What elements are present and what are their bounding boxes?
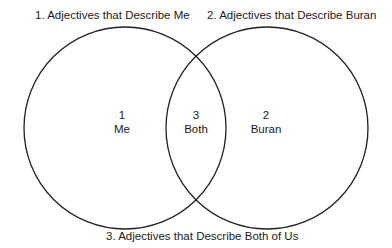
caption-set-1: 1. Adjectives that Describe Me [35, 9, 190, 21]
region-both-number: 3 [184, 108, 208, 122]
region-both-name: Both [184, 122, 208, 136]
region-buran-name: Buran [251, 122, 282, 136]
region-both-label: 3 Both [184, 108, 208, 136]
region-me-name: Me [114, 122, 130, 136]
region-buran-label: 2 Buran [251, 108, 282, 136]
region-me-label: 1 Me [114, 108, 130, 136]
caption-set-2: 2. Adjectives that Describe Buran [207, 9, 376, 21]
region-me-number: 1 [114, 108, 130, 122]
caption-intersection: 3. Adjectives that Describe Both of Us [106, 230, 298, 242]
region-buran-number: 2 [251, 108, 282, 122]
